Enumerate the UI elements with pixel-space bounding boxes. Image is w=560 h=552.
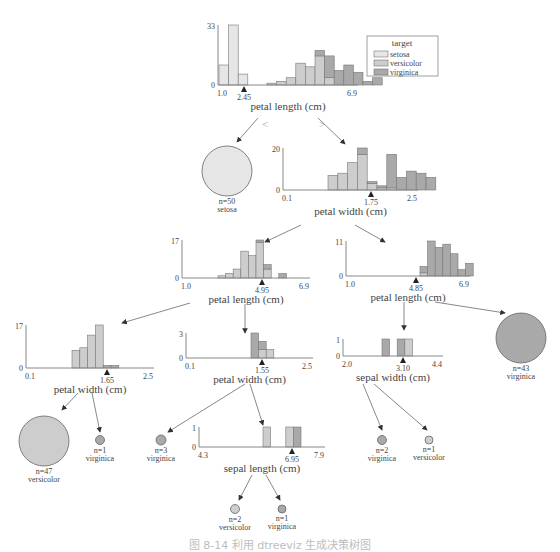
leaf-class: setosa	[217, 205, 237, 214]
legend-swatch-virginica	[374, 69, 388, 75]
leaf-circle	[231, 505, 240, 514]
leaf-node-leaf_virg3: n=3virginica	[147, 435, 176, 463]
legend: targetsetosaversicolorvirginica	[367, 36, 438, 77]
split-node-n_sl695: 104.37.96.95sepal length (cm)	[192, 424, 325, 475]
y-min-label: 0	[336, 352, 340, 361]
tree-edge	[265, 225, 301, 242]
y-min-label: 0	[19, 364, 23, 373]
histogram-bar-virginica	[416, 173, 426, 190]
histogram-bar-virginica	[428, 241, 436, 276]
x-min-label: 2.0	[342, 360, 352, 369]
histogram-bar-virginica	[435, 247, 443, 276]
tree-edge	[92, 393, 100, 432]
split-marker-icon	[241, 86, 247, 92]
histogram-bar-setosa	[238, 74, 248, 85]
tree-edge	[239, 475, 252, 500]
histogram-bar-virginica	[279, 274, 287, 278]
feature-label: petal width (cm)	[54, 383, 127, 396]
split-value: 2.45	[237, 93, 251, 102]
feature-label: sepal width (cm)	[356, 371, 430, 384]
leaf-class: versicolor	[413, 453, 445, 462]
leaf-node-leaf_vers47: n=47versicolor	[19, 416, 69, 484]
histogram-bar-setosa	[219, 65, 229, 85]
feature-label: sepal length (cm)	[224, 462, 301, 475]
y-min-label: 0	[175, 274, 179, 283]
histogram-bar-virginica	[353, 72, 363, 85]
tree-edge	[250, 384, 263, 425]
x-min-label: 1.0	[217, 89, 227, 98]
histogram-bar-virginica	[367, 182, 377, 184]
feature-label: petal length (cm)	[370, 291, 445, 304]
split-node-n_sw310: 102.04.43.10sepal width (cm)	[336, 336, 443, 384]
leaf-class: virginica	[86, 454, 115, 463]
x-min-label: 0.1	[25, 372, 35, 381]
tree-edge	[374, 384, 427, 430]
histogram-bar-versicolor	[286, 427, 294, 447]
histogram-bar-virginica	[325, 56, 335, 78]
split-node-n_pl485: 1101.06.94.85petal length (cm)	[335, 238, 473, 304]
tree-nodes: 3301.06.92.45petal length (cm)2000.12.51…	[15, 22, 546, 532]
histogram-bar-virginica	[426, 177, 436, 190]
leaf-node-leaf_vers2: n=2versicolor	[219, 505, 251, 532]
histogram-bar-versicolor	[233, 269, 241, 278]
feature-label: petal width (cm)	[213, 373, 286, 386]
split-node-n_pw155: 300.12.51.55petal width (cm)	[179, 330, 313, 386]
edge-label-left: <	[262, 118, 268, 130]
histogram-bar-virginica	[406, 171, 416, 190]
leaf-class: versicolor	[28, 475, 60, 484]
histogram-bar-versicolor	[241, 251, 249, 278]
tree-edge	[237, 118, 258, 142]
split-marker-icon	[104, 369, 110, 375]
histogram-bar-versicolor	[72, 350, 80, 368]
leaf-circle	[496, 313, 546, 363]
leaf-class: virginica	[507, 372, 536, 381]
tree-edge	[62, 393, 78, 410]
x-max-label: 4.4	[432, 360, 442, 369]
histogram-bar-virginica	[344, 65, 354, 85]
split-node-n_pw165: 1700.12.51.65petal width (cm)	[15, 322, 154, 396]
split-marker-icon	[368, 191, 374, 197]
histogram-bar-virginica	[466, 263, 474, 276]
y-max-label: 11	[335, 238, 343, 247]
y-max-label: 17	[15, 322, 23, 331]
y-max-label: 17	[171, 237, 179, 246]
histogram-bar-virginica	[387, 154, 397, 188]
y-min-label: 0	[179, 354, 183, 363]
x-max-label: 6.9	[347, 89, 357, 98]
histogram-bar-versicolor	[305, 67, 315, 85]
x-max-label: 2.5	[407, 194, 417, 203]
histogram-bar-virginica	[397, 177, 407, 190]
histogram-bar-versicolor	[348, 163, 358, 190]
x-max-label: 2.5	[302, 362, 312, 371]
split-marker-icon	[400, 357, 406, 363]
leaf-class: virginica	[268, 522, 297, 531]
histogram-bar-versicolor	[263, 427, 271, 447]
leaf-node-leaf_virg43: n=43virginica	[496, 313, 546, 381]
x-min-label: 1.0	[181, 282, 191, 291]
histogram-bar-virginica	[315, 50, 325, 55]
leaf-node-leaf_vers1: n=1versicolor	[413, 436, 445, 462]
leaf-class: virginica	[368, 454, 397, 463]
histogram-bar-virginica	[259, 341, 267, 349]
leaf-class: virginica	[147, 454, 176, 463]
x-max-label: 7.9	[314, 451, 324, 460]
histogram-bar-versicolor	[325, 78, 335, 85]
histogram-bar-virginica	[443, 244, 451, 276]
legend-label-versicolor: versicolor	[390, 59, 422, 68]
leaf-circle	[425, 436, 433, 444]
y-min-label: 0	[276, 186, 280, 195]
histogram-bar-versicolor	[226, 274, 234, 278]
split-node-n_pl495: 1701.06.94.95petal length (cm)	[171, 237, 310, 306]
y-min-label: 0	[211, 81, 215, 90]
x-max-label: 6.9	[459, 280, 469, 289]
leaf-circle	[156, 435, 166, 445]
x-min-label: 0.1	[282, 194, 292, 203]
histogram-bar-versicolor	[248, 256, 256, 278]
leaf-circle	[19, 416, 69, 466]
histogram-bar-versicolor	[357, 154, 367, 190]
histogram-bar-virginica	[357, 148, 367, 154]
histogram-bar-versicolor	[405, 339, 413, 356]
leaf-node-leaf_virg2: n=2virginica	[368, 436, 397, 463]
tree-edge	[435, 302, 505, 313]
histogram-bar-virginica	[450, 254, 458, 276]
